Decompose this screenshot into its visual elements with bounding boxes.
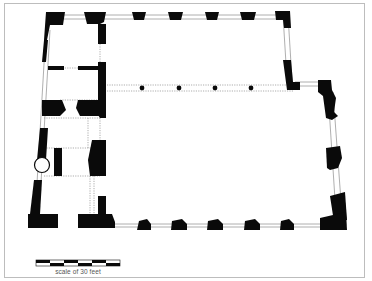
column xyxy=(249,86,254,91)
window-lines xyxy=(36,15,342,227)
floor-plan xyxy=(0,0,372,281)
column xyxy=(140,86,145,91)
stair-turret xyxy=(35,158,50,173)
scale-bar xyxy=(36,260,120,266)
walls xyxy=(28,11,347,230)
scale-label: scale of 30 feet xyxy=(36,268,120,275)
column xyxy=(177,86,182,91)
column xyxy=(213,86,218,91)
columns xyxy=(140,86,254,91)
